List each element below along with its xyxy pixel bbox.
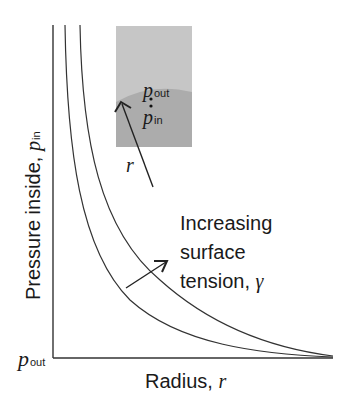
- increase-arrow: [126, 262, 166, 288]
- pressure-radius-diagram: pout pin r Increasing surface tension, γ…: [0, 0, 360, 417]
- y-axis-label: Pressure inside, pin: [22, 131, 45, 300]
- curve-low-tension: [65, 25, 333, 357]
- bubble-inset: pout pin r: [115, 26, 192, 187]
- inset-r: r: [126, 154, 134, 176]
- y-origin-label: pout: [16, 346, 45, 371]
- annotation: Increasing surface tension, γ: [180, 212, 278, 293]
- x-axis-label: Radius, r: [145, 370, 226, 392]
